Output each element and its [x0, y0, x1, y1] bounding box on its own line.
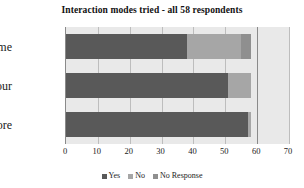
- bar-segment: [66, 112, 248, 137]
- legend-item: No Response: [153, 171, 202, 180]
- x-axis-tick-label: 50: [209, 146, 239, 156]
- y-axis-tick-label: Explore: [0, 119, 12, 131]
- bar-segment: [228, 73, 250, 98]
- x-axis-tick-label: 0: [50, 146, 80, 156]
- legend-swatch-icon: [153, 174, 158, 179]
- x-axis-tick-label: 30: [146, 146, 176, 156]
- y-axis-tick-label: Game: [0, 41, 12, 53]
- x-axis-tick-label: 20: [114, 146, 144, 156]
- legend-swatch-icon: [128, 174, 133, 179]
- bar-row: [66, 73, 289, 98]
- bar-segment: [66, 34, 187, 59]
- x-axis-tick-label: 10: [82, 146, 112, 156]
- legend-item: No: [128, 171, 145, 180]
- bar-segment: [66, 73, 228, 98]
- bar-segment: [241, 34, 251, 59]
- bar-row: [66, 112, 289, 137]
- chart-legend: YesNoNo Response: [0, 170, 304, 180]
- gridline-70: [289, 27, 290, 144]
- legend-swatch-icon: [102, 174, 107, 179]
- x-axis-tick-label: 60: [241, 146, 271, 156]
- y-axis-tick-label: Tour: [0, 80, 12, 92]
- chart-container: Interaction modes tried - all 58 respond…: [0, 0, 304, 188]
- x-axis-tick-label: 40: [177, 146, 207, 156]
- legend-label: No Response: [160, 171, 202, 180]
- chart-title: Interaction modes tried - all 58 respond…: [0, 5, 304, 15]
- legend-label: No: [135, 171, 145, 180]
- legend-label: Yes: [109, 171, 121, 180]
- x-axis-tick-label: 70: [273, 146, 303, 156]
- bar-segment: [248, 112, 251, 137]
- plot-area: [65, 27, 289, 144]
- bar-segment: [187, 34, 241, 59]
- legend-item: Yes: [102, 171, 121, 180]
- bar-row: [66, 34, 289, 59]
